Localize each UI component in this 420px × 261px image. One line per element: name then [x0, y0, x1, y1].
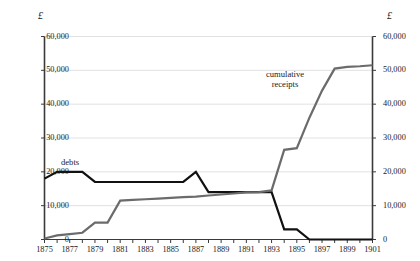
x-tick-label: 1899 — [339, 246, 356, 254]
x-tick-label: 1891 — [238, 246, 255, 254]
chart-container: £ £ 60,00050,00040,00030,00020,00010,000… — [0, 0, 420, 261]
y-tick-label-right: 0 — [383, 236, 387, 244]
x-tick-label: 1875 — [36, 246, 53, 254]
x-tick-label: 1887 — [188, 246, 205, 254]
x-tick-label: 1897 — [314, 246, 331, 254]
y-tick-label-left: 50,000 — [46, 66, 69, 74]
y-tick-label-left: 0 — [65, 236, 69, 244]
y-tick-label-right: 50,000 — [383, 66, 406, 74]
x-tick-label: 1885 — [162, 246, 179, 254]
x-tick-label: 1879 — [87, 246, 104, 254]
y-tick-label-right: 40,000 — [383, 100, 406, 108]
y-tick-label-left: 60,000 — [46, 33, 69, 41]
y-tick-label-left: 40,000 — [46, 100, 69, 108]
x-tick-label: 1883 — [137, 246, 154, 254]
y-tick-label-left: 20,000 — [46, 168, 69, 176]
x-tick-label: 1901 — [364, 246, 381, 254]
y-tick-label-left: 30,000 — [46, 134, 69, 142]
series-label-cumulative-receipts-line2: receipts — [248, 80, 322, 90]
series-label-cumulative-receipts: cumulative receipts — [248, 70, 322, 89]
series-line-cumulative-receipts — [45, 65, 373, 238]
x-tick-label: 1877 — [61, 246, 78, 254]
y-tick-label-left: 10,000 — [46, 202, 69, 210]
y-tick-label-right: 30,000 — [383, 134, 406, 142]
y-tick-label-right: 20,000 — [383, 168, 406, 176]
y-tick-label-right: 60,000 — [383, 33, 406, 41]
series-label-debts: debts — [61, 158, 79, 168]
x-tick-label: 1881 — [112, 246, 129, 254]
x-tick-label: 1889 — [213, 246, 230, 254]
y-tick-label-right: 10,000 — [383, 202, 406, 210]
x-tick-label: 1895 — [289, 246, 306, 254]
x-tick-label: 1893 — [263, 246, 280, 254]
